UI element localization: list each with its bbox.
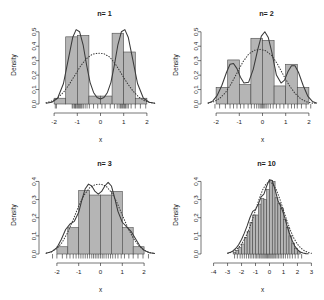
y-tick-label: 0.1 [30,231,37,240]
histogram-bar [264,200,267,254]
histogram-bar [281,209,284,254]
histogram-bar [274,86,286,104]
histogram-bar [247,231,250,254]
x-tick-label: -2 [213,118,219,125]
histogram-bar [111,191,122,254]
x-tick-label: -2 [54,268,60,275]
histogram-bar [256,215,259,254]
histogram-bars [216,38,309,104]
histogram-bar [258,204,261,254]
y-tick-label: 0.1 [30,85,37,94]
x-tick-label: 2 [142,268,146,275]
x-tick-label: -4 [211,268,217,275]
density-curve [46,30,155,104]
y-tick-label: 0.2 [192,70,199,79]
histogram-bar [242,244,245,254]
y-axis: 0.00.10.20.30.40.5 [192,27,201,108]
histogram-bar [244,238,247,254]
x-tick-label: 0 [261,118,265,125]
histogram-bar [278,203,281,254]
panel-title: n= 3 [97,159,112,168]
y-tick-label: 0.3 [192,56,199,65]
x-axis-label: x [99,286,103,293]
histogram-bar [68,228,79,254]
panel-title: n= 2 [259,9,274,18]
x-tick-label: 1 [121,268,125,275]
x-tick-label: -3 [225,268,231,275]
histogram-bar [90,195,101,254]
panel-title: n= 1 [97,9,112,18]
histogram-bar [283,220,286,254]
histogram-bars [54,33,147,104]
x-tick-label: 2 [296,268,300,275]
x-tick-label: -2 [239,268,245,275]
x-tick-label: 0 [99,118,103,125]
y-tick-label: 0.0 [192,99,199,108]
panel-n10: n= 100.00.10.20.30.4-4-3-2-10123xDensity [162,150,324,300]
histogram-bar [263,40,275,104]
histogram-bar [57,247,68,254]
histogram-bar [253,215,256,254]
y-tick-label: 0.3 [192,195,199,204]
x-tick-label: 1 [282,268,286,275]
histogram-bar [239,248,242,254]
histogram-bar [79,191,90,254]
histogram-bar [124,52,136,104]
y-tick-label: 0.3 [30,56,37,65]
x-tick-label: 3 [310,268,314,275]
y-tick-label: 0.1 [192,85,199,94]
y-tick-label: 0.5 [192,27,199,36]
y-axis: 0.00.10.20.30.40.5 [30,27,39,108]
histogram-panel-grid: n= 10.00.10.20.30.40.5-2-1012xDensity n=… [0,0,324,300]
y-tick-label: 0.3 [30,195,37,204]
x-tick-label: 2 [307,118,311,125]
x-axis: -2-1012 [54,263,146,275]
y-tick-label: 0.4 [30,41,37,50]
y-tick-label: 0.4 [192,41,199,50]
histogram-bar [261,199,264,254]
panel-n3: n= 30.00.10.20.30.4-2-1012xDensity [0,150,162,300]
y-tick-label: 0.2 [192,213,199,222]
y-tick-label: 0.5 [30,27,37,36]
rug-plot [215,104,311,109]
x-tick-label: -1 [76,268,82,275]
histogram-plot: n= 20.00.10.20.30.40.5-2-1012xDensity [162,0,324,150]
y-axis-label: Density [10,54,18,76]
histogram-plot: n= 30.00.10.20.30.4-2-1012xDensity [0,150,162,300]
rug-plot [53,254,149,259]
histogram-bar [286,64,298,104]
histogram-bar [267,190,270,254]
x-tick-label: 0 [268,268,272,275]
x-axis-label: x [99,136,103,143]
histogram-plot: n= 10.00.10.20.30.40.5-2-1012xDensity [0,0,162,150]
y-tick-label: 0.2 [30,70,37,79]
x-tick-label: -1 [237,118,243,125]
histogram-bar [133,247,144,254]
histogram-bar [250,222,253,254]
y-axis-label: Density [172,204,180,226]
histogram-bar [66,37,78,104]
histogram-bars [233,181,300,254]
x-axis-label: x [261,136,265,143]
y-tick-label: 0.0 [192,249,199,258]
panel-title: n= 10 [257,159,276,168]
y-tick-label: 0.1 [192,231,199,240]
histogram-bar [239,85,251,105]
y-axis: 0.00.10.20.30.4 [192,177,201,259]
histogram-bar [272,181,275,254]
panel-n2: n= 20.00.10.20.30.40.5-2-1012xDensity [162,0,324,150]
y-axis-label: Density [172,54,180,76]
y-axis: 0.00.10.20.30.4 [30,177,39,259]
histogram-bar [89,96,101,104]
x-axis: -2-1012 [51,113,149,125]
x-tick-label: -1 [75,118,81,125]
rug-plot [55,104,145,109]
histogram-bar [233,252,236,254]
histogram-bar [101,195,112,254]
x-tick-label: 1 [284,118,288,125]
x-tick-label: 0 [99,268,103,275]
x-tick-label: 1 [122,118,126,125]
histogram-bar [101,96,113,104]
x-axis: -2-1012 [213,113,311,125]
histogram-bar [236,250,239,254]
